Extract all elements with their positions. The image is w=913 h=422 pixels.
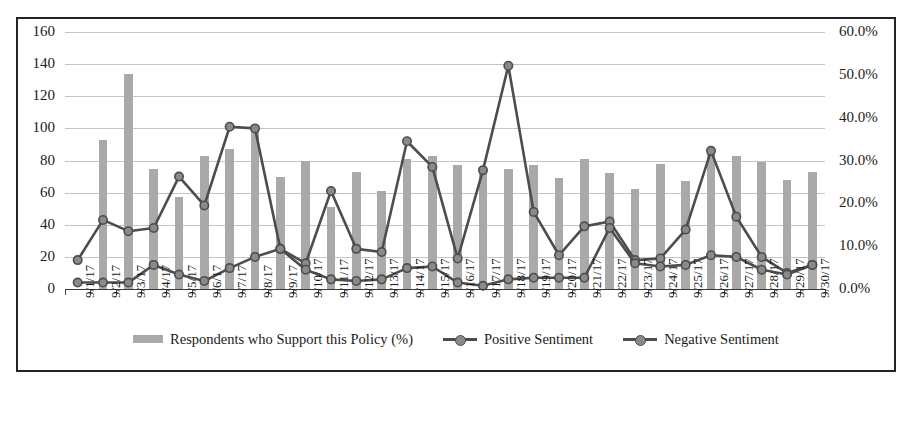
data-point-marker — [681, 225, 689, 233]
data-point-marker — [732, 213, 740, 221]
line-series — [73, 62, 816, 278]
line-series-group — [65, 32, 825, 289]
data-point-marker — [631, 259, 639, 267]
data-point-marker — [327, 187, 335, 195]
data-point-marker — [732, 253, 740, 261]
y-axis-left-tick-label: 60 — [18, 185, 55, 200]
data-point-marker — [251, 253, 259, 261]
x-axis-tick-label: 9/16/17 — [463, 258, 476, 298]
data-point-marker — [403, 264, 411, 272]
x-axis-tick-label: 9/8/17 — [261, 265, 274, 298]
data-point-marker — [276, 245, 284, 253]
legend-item-label: Respondents who Support this Policy (%) — [170, 331, 413, 348]
data-point-marker — [757, 266, 765, 274]
legend-bar-swatch-icon — [133, 335, 163, 343]
data-point-marker — [529, 208, 537, 216]
x-axis-tick-label: 9/18/17 — [514, 258, 527, 298]
y-axis-left-tick-label: 80 — [18, 153, 55, 168]
x-axis-tick-label: 9/20/17 — [565, 258, 578, 298]
data-point-marker — [428, 163, 436, 171]
data-point-marker — [504, 62, 512, 70]
data-point-marker — [555, 274, 563, 282]
x-axis-tick-label: 9/5/17 — [185, 265, 198, 298]
data-point-marker — [200, 277, 208, 285]
y-axis-right-tick-label: 60.0% — [839, 24, 878, 39]
x-axis-tick-label: 9/9/17 — [286, 265, 299, 298]
data-point-marker — [453, 278, 461, 286]
x-axis-tick-label: 9/24/17 — [666, 258, 679, 298]
x-axis-tick-label: 9/27/17 — [742, 258, 755, 298]
x-axis-tick-label: 9/22/17 — [615, 258, 628, 298]
data-point-marker — [529, 274, 537, 282]
x-axis-tick-label: 9/28/17 — [767, 258, 780, 298]
data-point-marker — [428, 262, 436, 270]
data-point-marker — [555, 251, 563, 259]
plot-area — [65, 32, 825, 289]
y-axis-right-tick-label: 40.0% — [839, 110, 878, 125]
data-point-marker — [149, 261, 157, 269]
x-axis-tick-label: 9/26/17 — [717, 258, 730, 298]
x-axis-tick-label: 9/2/17 — [109, 265, 122, 298]
data-point-marker — [175, 172, 183, 180]
y-axis-right-tick-label: 0.0% — [839, 281, 870, 296]
data-point-marker — [377, 275, 385, 283]
data-point-marker — [200, 201, 208, 209]
data-point-marker — [783, 270, 791, 278]
legend-item: Respondents who Support this Policy (%) — [133, 331, 413, 348]
data-point-marker — [707, 147, 715, 155]
data-point-marker — [377, 248, 385, 256]
data-point-marker — [681, 261, 689, 269]
data-point-marker — [124, 227, 132, 235]
x-axis-tick-label: 9/23/17 — [641, 258, 654, 298]
x-axis-tick-label: 9/30/17 — [818, 258, 831, 298]
x-axis-tick-label: 9/21/17 — [590, 258, 603, 298]
x-axis-tick-label: 9/25/17 — [691, 258, 704, 298]
data-point-marker — [301, 266, 309, 274]
x-axis-tick-label: 9/12/17 — [362, 258, 375, 298]
data-point-marker — [453, 254, 461, 262]
legend-item: Positive Sentiment — [443, 331, 593, 348]
data-point-marker — [352, 245, 360, 253]
data-point-marker — [656, 254, 664, 262]
y-axis-left-tick-label: 0 — [18, 281, 55, 296]
data-point-marker — [707, 251, 715, 259]
data-point-marker — [225, 123, 233, 131]
line-path — [78, 66, 813, 273]
x-axis-tick-label: 9/14/17 — [413, 258, 426, 298]
data-point-marker — [479, 166, 487, 174]
x-axis-tick-label: 9/7/17 — [235, 265, 248, 298]
data-point-marker — [225, 264, 233, 272]
y-axis-right-tick-label: 30.0% — [839, 153, 878, 168]
data-point-marker — [149, 224, 157, 232]
y-axis-left-tick-label: 140 — [18, 56, 55, 71]
data-point-marker — [99, 278, 107, 286]
legend-line-marker-swatch-icon — [623, 334, 657, 344]
legend-item: Negative Sentiment — [623, 331, 779, 348]
data-point-marker — [504, 275, 512, 283]
y-axis-left-tick-label: 40 — [18, 217, 55, 232]
y-axis-right-tick-label: 20.0% — [839, 195, 878, 210]
data-point-marker — [808, 261, 816, 269]
data-point-marker — [73, 256, 81, 264]
y-axis-right-tick-label: 50.0% — [839, 67, 878, 82]
legend-item-label: Negative Sentiment — [664, 331, 779, 348]
data-point-marker — [580, 222, 588, 230]
y-axis-left-tick-label: 100 — [18, 120, 55, 135]
y-axis-left-tick-label: 160 — [18, 24, 55, 39]
data-point-marker — [656, 262, 664, 270]
data-point-marker — [99, 216, 107, 224]
data-point-marker — [175, 270, 183, 278]
x-axis-tick-label: 9/10/17 — [311, 258, 324, 298]
y-axis-right-tick-label: 10.0% — [839, 238, 878, 253]
data-point-marker — [251, 124, 259, 132]
x-axis-tick-label: 9/29/17 — [793, 258, 806, 298]
x-axis-tick-label: 9/4/17 — [159, 265, 172, 298]
y-axis-left-tick-label: 20 — [18, 249, 55, 264]
x-axis-tick-label: 9/15/17 — [438, 258, 451, 298]
chart-legend: Respondents who Support this Policy (%)P… — [18, 324, 894, 354]
legend-line-marker-swatch-icon — [443, 334, 477, 344]
data-point-marker — [605, 224, 613, 232]
data-point-marker — [580, 274, 588, 282]
chart-frame: 020406080100120140160 0.0%10.0%20.0%30.0… — [16, 17, 896, 372]
data-point-marker — [124, 278, 132, 286]
